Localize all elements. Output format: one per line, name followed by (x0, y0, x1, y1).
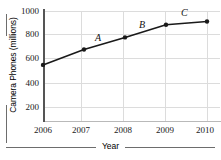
y-tick-label-400: 400 (9, 78, 39, 88)
x-tick-label-2008: 2008 (101, 125, 145, 135)
y-tick-label-1000: 1000 (9, 6, 39, 16)
segment-label-c: C (181, 7, 188, 18)
data-point-2008 (123, 35, 127, 39)
x-tick-label-2007: 2007 (59, 125, 103, 135)
plot-area: 1000 800 600 400 200 2006 2007 2008 2009… (43, 11, 220, 121)
y-axis-title-block: Camera Phones (millions) (0, 0, 16, 140)
x-axis-line (43, 121, 221, 122)
series-polyline (43, 21, 207, 64)
y-tick-label-200: 200 (9, 102, 39, 112)
data-series-line (43, 11, 220, 121)
x-tick-label-2009: 2009 (143, 125, 187, 135)
x-tick-label-2010: 2010 (183, 125, 221, 135)
y-axis-title-rule-top (6, 14, 7, 36)
data-point-2010 (205, 19, 209, 23)
x-axis-title-block: Year (0, 140, 221, 156)
data-point-2009 (164, 23, 168, 27)
y-tick-label-600: 600 (9, 53, 39, 63)
y-tick-label-800: 800 (9, 29, 39, 39)
x-axis-title: Year (0, 141, 221, 151)
y-axis-title-rule-bottom (6, 105, 7, 143)
series-markers (41, 19, 209, 67)
chart-figure: Camera Phones (millions) 1000 800 600 40… (0, 0, 221, 160)
segment-label-a: A (95, 32, 101, 43)
data-point-2007 (82, 47, 86, 51)
data-point-2006 (41, 63, 45, 67)
segment-label-b: B (139, 19, 145, 30)
